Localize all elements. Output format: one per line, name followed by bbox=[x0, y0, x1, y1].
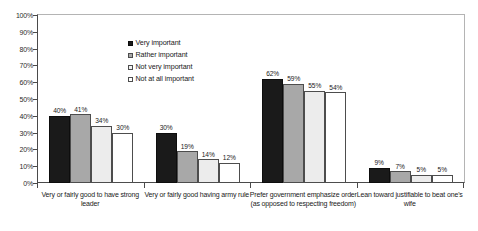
y-tick-mark bbox=[33, 82, 37, 83]
category-label: Lean toward justifiable to beat one's wi… bbox=[355, 190, 466, 208]
bar-value-label: 41% bbox=[66, 106, 95, 113]
bar-value-label: 30% bbox=[152, 124, 181, 131]
bar bbox=[112, 133, 133, 183]
legend-item: Rather important bbox=[128, 49, 194, 61]
bar bbox=[49, 116, 70, 183]
bar-value-label: 12% bbox=[215, 154, 244, 161]
y-tick-label: 50% bbox=[20, 96, 33, 103]
y-tick-label: 90% bbox=[20, 28, 33, 35]
bars-layer: 40%41%34%30%30%19%14%12%62%59%55%54%9%7%… bbox=[38, 15, 464, 183]
legend-label: Very important bbox=[136, 39, 181, 47]
legend: Very importantRather importantNot very i… bbox=[128, 37, 194, 85]
y-tick-label: 60% bbox=[20, 79, 33, 86]
bar bbox=[411, 175, 432, 183]
legend-item: Not very important bbox=[128, 61, 194, 73]
bar bbox=[156, 133, 177, 183]
y-tick-mark bbox=[33, 133, 37, 134]
bar bbox=[325, 92, 346, 183]
bar-value-label: 30% bbox=[108, 124, 137, 131]
legend-swatch-icon bbox=[128, 41, 133, 46]
y-tick-label: 10% bbox=[20, 163, 33, 170]
y-axis: 0%10%20%30%40%50%60%70%80%90%100% bbox=[0, 0, 37, 197]
bar bbox=[262, 79, 283, 183]
bar bbox=[283, 84, 304, 183]
y-tick-mark bbox=[33, 49, 37, 50]
bar-group: 62%59%55%54% bbox=[262, 15, 346, 183]
group-separator-tick bbox=[357, 183, 358, 188]
bar-value-label: 54% bbox=[321, 84, 350, 91]
y-tick-label: 40% bbox=[20, 112, 33, 119]
y-tick-label: 70% bbox=[20, 62, 33, 69]
bar-value-label: 19% bbox=[173, 143, 202, 150]
bar bbox=[432, 175, 453, 183]
y-tick-mark bbox=[33, 32, 37, 33]
category-label: Very or fairly good having army rule bbox=[142, 190, 253, 199]
y-tick-mark bbox=[33, 116, 37, 117]
category-label: Prefer government emphasize order (as op… bbox=[248, 190, 359, 208]
group-separator-tick bbox=[144, 183, 145, 188]
bar-value-label: 5% bbox=[428, 166, 457, 173]
bar bbox=[304, 91, 325, 183]
bar bbox=[91, 126, 112, 183]
legend-swatch-icon bbox=[128, 65, 133, 70]
y-tick-label: 100% bbox=[16, 12, 33, 19]
bar-group: 9%7%5%5% bbox=[369, 15, 453, 183]
bar bbox=[198, 159, 219, 183]
y-tick-label: 80% bbox=[20, 45, 33, 52]
y-tick-label: 20% bbox=[20, 146, 33, 153]
legend-label: Not very important bbox=[136, 63, 193, 71]
legend-label: Not at all important bbox=[136, 75, 194, 83]
y-tick-mark bbox=[33, 149, 37, 150]
bar bbox=[219, 163, 240, 183]
bar bbox=[70, 114, 91, 183]
group-separator-tick bbox=[250, 183, 251, 188]
group-separator-tick bbox=[37, 183, 38, 188]
y-tick-mark bbox=[33, 99, 37, 100]
bar-chart: 0%10%20%30%40%50%60%70%80%90%100% 40%41%… bbox=[0, 0, 478, 231]
category-axis-labels: Very or fairly good to have strong leade… bbox=[37, 190, 465, 231]
legend-label: Rather important bbox=[136, 51, 188, 59]
y-tick-label: 30% bbox=[20, 129, 33, 136]
group-separator-tick bbox=[463, 183, 464, 188]
legend-swatch-icon bbox=[128, 77, 133, 82]
legend-item: Very important bbox=[128, 37, 194, 49]
bar bbox=[369, 168, 390, 183]
y-tick-mark bbox=[33, 15, 37, 16]
y-tick-mark bbox=[33, 65, 37, 66]
category-label: Very or fairly good to have strong leade… bbox=[35, 190, 146, 208]
legend-item: Not at all important bbox=[128, 73, 194, 85]
y-tick-label: 0% bbox=[23, 180, 33, 187]
legend-swatch-icon bbox=[128, 53, 133, 58]
bar-group: 40%41%34%30% bbox=[49, 15, 133, 183]
y-tick-mark bbox=[33, 166, 37, 167]
